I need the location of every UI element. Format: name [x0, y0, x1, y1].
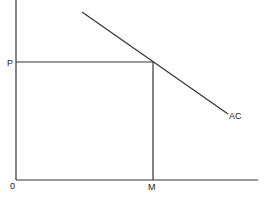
price-label: P — [7, 58, 13, 68]
ac-curve — [82, 12, 228, 114]
quantity-label: M — [148, 182, 156, 192]
origin-label: 0 — [10, 181, 15, 191]
ac-diagram: P 0 M AC — [0, 0, 266, 200]
ac-curve-label: AC — [229, 111, 242, 121]
